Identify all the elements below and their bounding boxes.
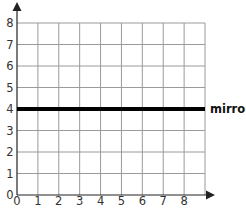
mirror-label: mirror (210, 102, 246, 116)
x-tick-label: 8 (180, 194, 187, 208)
x-tick-label: 3 (76, 194, 83, 208)
y-axis-arrow-icon (13, 2, 22, 11)
x-tick-label: 0 (13, 194, 20, 208)
x-tick-label: 2 (55, 194, 62, 208)
y-tick-label: 6 (6, 59, 13, 73)
y-tick-label: 8 (6, 16, 13, 30)
x-tick-label: 7 (160, 194, 167, 208)
x-tick-label: 4 (97, 194, 104, 208)
y-tick-label: 0 (6, 188, 13, 202)
x-axis-arrow-icon (206, 191, 215, 200)
axes (13, 2, 216, 200)
y-tick-label: 2 (6, 145, 13, 159)
x-tick-label: 1 (34, 194, 41, 208)
grid-plot: 012345678012345678 mirror (0, 0, 246, 210)
y-tick-label: 7 (6, 38, 13, 52)
y-tick-label: 3 (6, 124, 13, 138)
x-tick-label: 5 (118, 194, 125, 208)
mirror-line-group: mirror (17, 102, 246, 116)
coordinate-grid-diagram: 012345678012345678 mirror (0, 0, 246, 210)
y-tick-label: 1 (6, 167, 13, 181)
x-tick-label: 6 (139, 194, 146, 208)
y-tick-label: 5 (6, 81, 13, 95)
y-tick-label: 4 (6, 102, 13, 116)
